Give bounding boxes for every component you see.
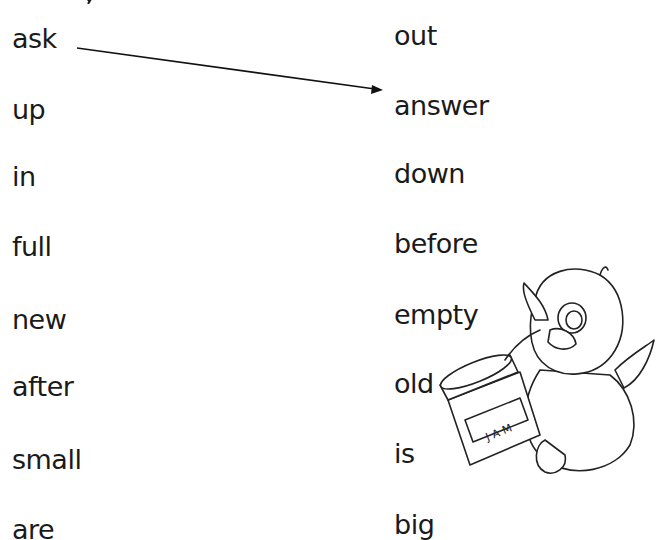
penguin-jam-illustration: J A M [0,0,659,540]
